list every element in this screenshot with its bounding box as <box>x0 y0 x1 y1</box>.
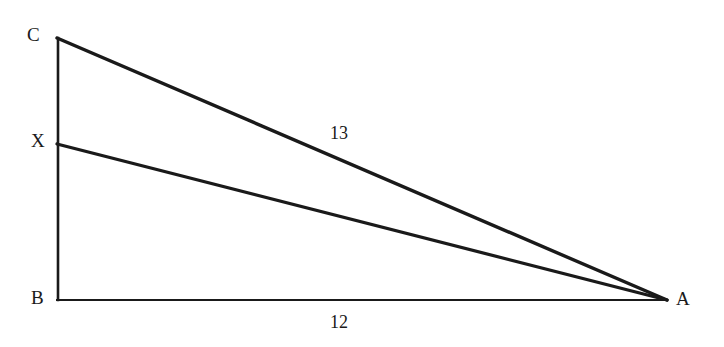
vertex-label-a: A <box>676 289 690 308</box>
triangle-figure <box>0 0 724 347</box>
vertex-label-x: X <box>31 131 45 150</box>
geometry-diagram: C X B A 13 12 <box>0 0 724 347</box>
side-length-label-ca: 13 <box>330 124 348 142</box>
vertex-label-c: C <box>27 25 40 44</box>
vertex-label-b: B <box>31 288 44 307</box>
side-length-label-ba: 12 <box>330 313 348 331</box>
